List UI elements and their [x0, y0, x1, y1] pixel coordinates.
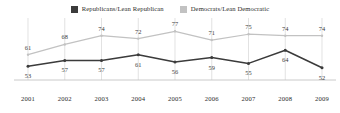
data-point: [210, 56, 213, 59]
data-label: 52: [319, 73, 326, 80]
chart-legend: Republicans/Lean Republican Democrats/Le…: [0, 2, 340, 16]
data-label: 64: [282, 56, 289, 63]
data-label: 72: [135, 27, 142, 34]
data-point: [27, 65, 30, 68]
data-point: [137, 53, 140, 56]
data-label: 53: [25, 72, 32, 79]
data-label: 75: [245, 23, 252, 30]
legend-label-democrats: Democrats/Lean Democratic: [191, 5, 269, 13]
data-point: [247, 62, 250, 65]
legend-item-democrats: Democrats/Lean Democratic: [180, 5, 269, 13]
x-tick-label: 2006: [205, 94, 219, 104]
data-point: [174, 60, 177, 63]
x-tick-label: 2008: [278, 94, 292, 104]
data-label: 59: [208, 63, 215, 70]
x-tick-label: 2004: [131, 94, 145, 104]
data-point: [284, 34, 286, 36]
data-point: [321, 34, 323, 36]
x-tick-label: 2003: [95, 94, 109, 104]
data-point: [27, 53, 29, 55]
data-point: [137, 37, 139, 39]
square-swatch-icon: [180, 6, 187, 13]
plot-svg: [0, 18, 340, 90]
x-axis: 200120022003200420052006200720082009: [0, 92, 340, 108]
data-label: 57: [61, 66, 68, 73]
data-point: [100, 34, 102, 36]
line-chart: Republicans/Lean Republican Democrats/Le…: [0, 0, 340, 113]
data-point: [247, 33, 249, 35]
data-point: [100, 59, 103, 62]
data-label: 57: [98, 66, 105, 73]
data-label: 74: [98, 24, 105, 31]
x-tick-label: 2005: [168, 94, 182, 104]
x-tick-label: 2002: [58, 94, 72, 104]
plot-area: 535757615659556452616874727771757474: [0, 18, 340, 90]
x-tick-label: 2009: [315, 94, 329, 104]
data-label: 74: [282, 24, 289, 31]
legend-item-republicans: Republicans/Lean Republican: [71, 5, 164, 13]
data-point: [321, 66, 324, 69]
data-label: 61: [135, 60, 142, 67]
x-tick-label: 2001: [21, 94, 35, 104]
data-point: [211, 39, 213, 41]
data-label: 68: [61, 33, 68, 40]
data-point: [284, 49, 287, 52]
legend-label-republicans: Republicans/Lean Republican: [82, 5, 164, 13]
square-swatch-icon: [71, 6, 78, 13]
data-label: 77: [172, 20, 179, 27]
data-label: 61: [25, 43, 32, 50]
data-label: 55: [245, 69, 252, 76]
data-point: [174, 30, 176, 32]
x-tick-label: 2007: [242, 94, 256, 104]
data-point: [63, 59, 66, 62]
data-label: 71: [208, 29, 215, 36]
data-point: [64, 43, 66, 45]
data-label: 56: [172, 67, 179, 74]
data-label: 74: [319, 24, 326, 31]
